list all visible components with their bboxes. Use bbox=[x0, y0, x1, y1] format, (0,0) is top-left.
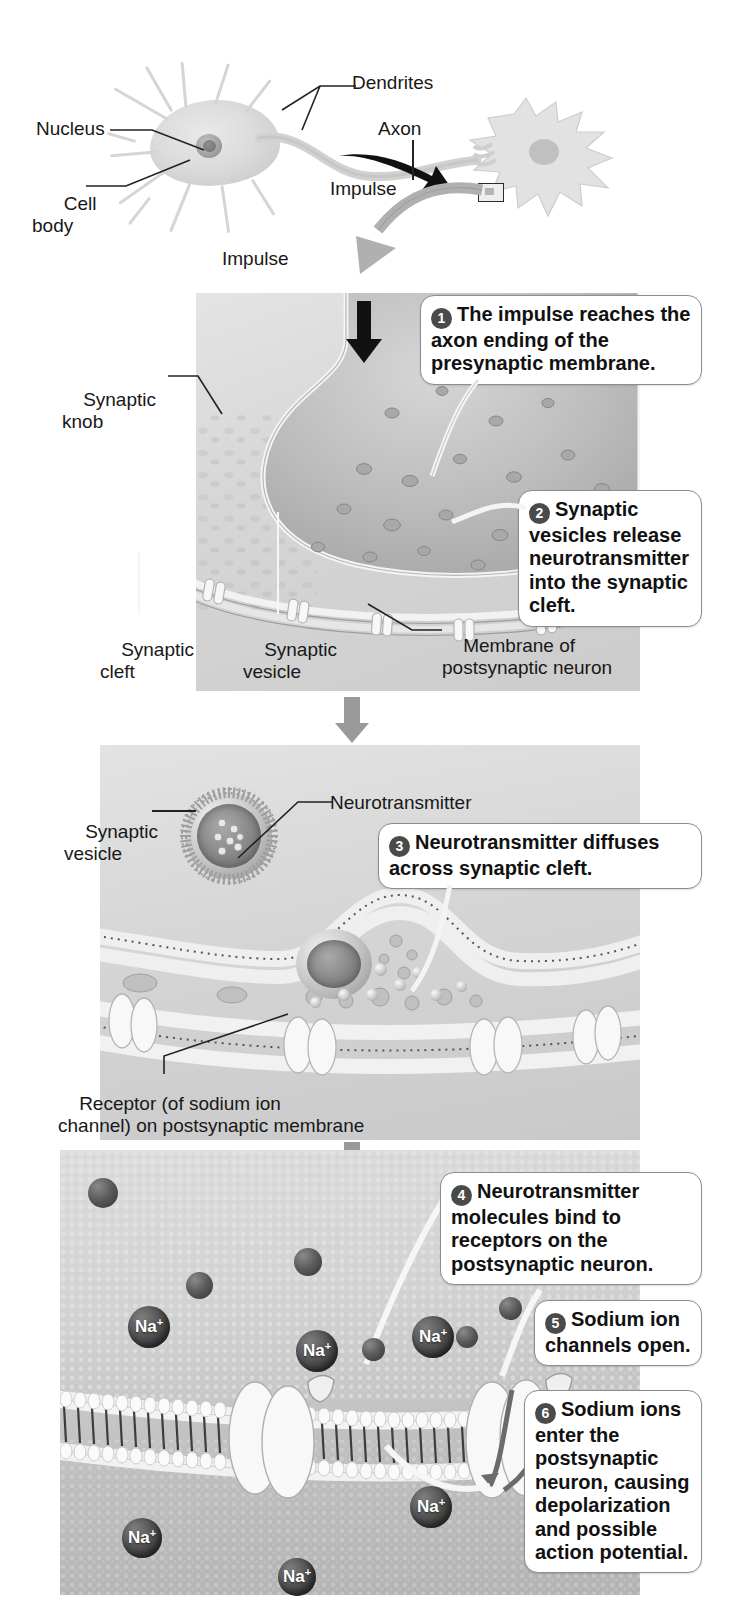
label-impulse-overview: Impulse bbox=[330, 178, 397, 199]
figure-root: Dendrites Nucleus Cell body Axon Impulse… bbox=[0, 0, 742, 1622]
label-membrane-postsynaptic: Membrane of postsynaptic neuron bbox=[442, 614, 612, 699]
sodium-ion: Na+ bbox=[296, 1330, 338, 1372]
sodium-ion-plain bbox=[362, 1338, 385, 1361]
callout-2: 2Synaptic vesicles release neurotransmit… bbox=[518, 490, 702, 627]
synaptic-cleft-leader bbox=[138, 552, 140, 614]
callout-4-text: 4Neurotransmitter molecules bind to rece… bbox=[451, 1180, 691, 1276]
dendrites-leader bbox=[258, 78, 358, 138]
label-dendrites: Dendrites bbox=[352, 72, 433, 93]
neurotransmitter-dot bbox=[310, 997, 321, 1008]
synaptic-knob-leader bbox=[168, 372, 228, 420]
callout-4-number: 4 bbox=[451, 1185, 472, 1206]
dendrite bbox=[145, 66, 174, 113]
callout-1: 1The impulse reaches the axon ending of … bbox=[420, 295, 702, 385]
callout-6-text: 6Sodium ions enter the postsynaptic neur… bbox=[535, 1398, 691, 1564]
dendrite bbox=[128, 197, 151, 226]
label-receptor-text: Receptor (of sodium ion channel) on post… bbox=[58, 1093, 364, 1135]
neurotransmitter-dot bbox=[338, 989, 350, 1001]
nucleus-leader bbox=[110, 128, 210, 158]
panel2-vesicle-leader bbox=[152, 810, 196, 812]
neurotransmitter-leader bbox=[234, 800, 334, 864]
receptor-leader bbox=[162, 1012, 292, 1076]
sodium-ion-label: Na+ bbox=[296, 1340, 338, 1362]
callout-3-text: 3Neurotransmitter diffuses across synapt… bbox=[389, 831, 691, 880]
callout-3-tail bbox=[398, 885, 458, 995]
callout-3-number: 3 bbox=[389, 836, 410, 857]
callout-5-number: 5 bbox=[545, 1313, 566, 1334]
callout-2-tail bbox=[448, 492, 528, 532]
callout-3: 3Neurotransmitter diffuses across synapt… bbox=[378, 823, 702, 889]
cellbody-leader bbox=[86, 158, 196, 190]
vesicle-fusing bbox=[296, 929, 372, 999]
sodium-ion-plain bbox=[294, 1248, 322, 1276]
label-synaptic-cleft: Synaptic cleft bbox=[100, 618, 194, 703]
sodium-ion-label: Na+ bbox=[278, 1566, 316, 1588]
vesicle-fusing-interior bbox=[307, 940, 361, 988]
membrane-leader bbox=[366, 600, 444, 636]
panel1-impulse-arrow bbox=[344, 301, 384, 365]
callout-5-text: 5Sodium ion channels open. bbox=[545, 1308, 691, 1357]
dendrite bbox=[221, 185, 231, 233]
dendrite bbox=[180, 62, 187, 108]
sodium-ion-label: Na+ bbox=[128, 1316, 170, 1338]
callout-1-number: 1 bbox=[431, 308, 452, 329]
label-membrane-postsynaptic-text: Membrane of postsynaptic neuron bbox=[442, 635, 612, 677]
callout-6: 6Sodium ions enter the postsynaptic neur… bbox=[524, 1390, 702, 1573]
label-panel2-synaptic-vesicle-text: Synaptic vesicle bbox=[64, 821, 158, 863]
sodium-ion-plain bbox=[499, 1297, 522, 1320]
callout-2-text: 2Synaptic vesicles release neurotransmit… bbox=[529, 498, 691, 618]
callout-1-text: 1The impulse reaches the axon ending of … bbox=[431, 303, 691, 376]
sodium-ion: Na+ bbox=[410, 1486, 452, 1528]
sodium-ion-plain bbox=[88, 1178, 118, 1208]
sodium-ion-plain bbox=[456, 1326, 478, 1348]
sodium-ion-label: Na+ bbox=[122, 1527, 162, 1549]
label-synaptic-knob: Synaptic knob bbox=[62, 368, 156, 453]
sodium-ion-plain bbox=[186, 1272, 213, 1299]
callout-4: 4Neurotransmitter molecules bind to rece… bbox=[440, 1172, 702, 1285]
dendrite bbox=[169, 183, 191, 232]
label-neurotransmitter: Neurotransmitter bbox=[330, 792, 472, 813]
label-cell-body-text: Cell body bbox=[32, 193, 96, 235]
sodium-ion-label: Na+ bbox=[410, 1496, 452, 1518]
label-synaptic-cleft-text: Synaptic cleft bbox=[100, 639, 194, 681]
sodium-ion: Na+ bbox=[122, 1518, 162, 1558]
label-nucleus: Nucleus bbox=[36, 118, 105, 139]
sodium-ion: Na+ bbox=[278, 1558, 316, 1596]
step-arrow-1 bbox=[335, 697, 369, 743]
label-receptor: Receptor (of sodium ion channel) on post… bbox=[58, 1072, 364, 1157]
sodium-ion: Na+ bbox=[128, 1306, 170, 1348]
synaptic-vesicle-leader bbox=[277, 512, 279, 614]
callout-5: 5Sodium ion channels open. bbox=[534, 1300, 702, 1366]
axon-leader bbox=[412, 140, 414, 180]
label-synaptic-vesicle-text: Synaptic vesicle bbox=[243, 639, 337, 681]
neurotransmitter-dot bbox=[374, 963, 387, 976]
label-impulse-zoom: Impulse bbox=[222, 248, 289, 269]
label-axon: Axon bbox=[378, 118, 421, 139]
sodium-ion-label: Na+ bbox=[412, 1326, 454, 1348]
sodium-ion: Na+ bbox=[412, 1316, 454, 1358]
callout-2-number: 2 bbox=[529, 503, 550, 524]
callout-1-tail bbox=[406, 380, 486, 480]
callout-6-number: 6 bbox=[535, 1403, 556, 1424]
label-synaptic-knob-text: Synaptic knob bbox=[62, 389, 156, 431]
label-synaptic-vesicle: Synaptic vesicle bbox=[243, 618, 337, 703]
neurotransmitter-dot bbox=[366, 989, 378, 1001]
label-panel2-synaptic-vesicle: Synaptic vesicle bbox=[64, 800, 158, 885]
